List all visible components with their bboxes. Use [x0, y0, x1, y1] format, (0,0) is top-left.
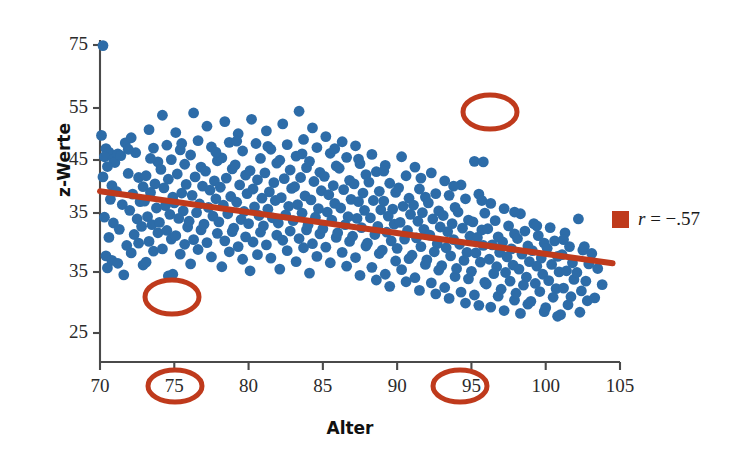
data-point — [499, 203, 510, 214]
data-point — [430, 188, 441, 199]
data-point — [377, 245, 388, 256]
data-point — [102, 263, 113, 274]
data-point — [481, 279, 492, 290]
data-point — [176, 188, 187, 199]
data-point — [230, 159, 241, 170]
data-point — [353, 154, 364, 165]
data-point — [144, 124, 155, 135]
data-point — [219, 235, 230, 246]
x-tick-label: 105 — [597, 375, 643, 397]
x-tick-label: 95 — [448, 375, 494, 397]
data-point — [126, 248, 137, 259]
data-point — [421, 254, 432, 265]
data-point — [466, 266, 477, 277]
data-point — [509, 207, 520, 218]
data-point — [482, 223, 493, 234]
data-point — [515, 308, 526, 319]
data-point — [213, 216, 224, 227]
data-point — [282, 245, 293, 256]
circled-outlier-high — [463, 95, 517, 129]
data-point — [453, 207, 464, 218]
data-point — [505, 276, 516, 287]
data-point — [438, 210, 449, 221]
data-point — [329, 143, 340, 154]
data-point — [148, 143, 159, 154]
data-point — [99, 212, 110, 223]
data-point — [476, 195, 487, 206]
data-point — [234, 180, 245, 191]
data-point — [306, 195, 317, 206]
data-point — [248, 184, 259, 195]
data-point — [555, 309, 566, 320]
data-point — [499, 305, 510, 316]
data-point — [423, 197, 434, 208]
data-point — [185, 150, 196, 161]
data-point — [320, 131, 331, 142]
data-point — [268, 177, 279, 188]
data-point — [262, 141, 273, 152]
data-point — [228, 223, 239, 234]
data-point — [188, 108, 199, 119]
data-point — [320, 242, 331, 253]
data-point — [368, 195, 379, 206]
data-point — [427, 214, 438, 225]
data-point — [337, 247, 348, 258]
data-point — [572, 267, 583, 278]
data-point — [355, 270, 366, 281]
data-point — [338, 184, 349, 195]
data-point — [199, 219, 210, 230]
data-point — [193, 135, 204, 146]
data-point — [410, 272, 421, 283]
data-point — [248, 237, 259, 248]
data-point — [439, 282, 450, 293]
data-point — [414, 285, 425, 296]
data-point — [374, 186, 385, 197]
data-point — [258, 220, 269, 231]
data-point — [156, 164, 167, 175]
data-point — [371, 275, 382, 286]
data-point — [307, 123, 318, 134]
data-point — [534, 286, 545, 297]
data-point — [576, 286, 587, 297]
x-tick-label: 100 — [523, 375, 569, 397]
data-point — [231, 136, 242, 147]
data-point — [309, 176, 320, 187]
data-point — [98, 40, 109, 51]
data-point — [277, 235, 288, 246]
data-point — [579, 241, 590, 252]
legend-r-value: = −.57 — [645, 208, 700, 229]
data-point — [540, 302, 551, 313]
x-tick-label: 70 — [77, 375, 123, 397]
data-point — [478, 157, 489, 168]
data-point — [448, 181, 459, 192]
data-point — [294, 233, 305, 244]
data-point — [574, 307, 585, 318]
data-point — [312, 251, 323, 262]
data-point — [141, 170, 152, 181]
data-point — [297, 148, 308, 159]
x-tick-label: 85 — [300, 375, 346, 397]
scatter-plot-figure: z-Werte Alter 755545353525 7075808590951… — [0, 0, 736, 464]
data-point — [255, 153, 266, 164]
data-point — [114, 224, 125, 235]
data-point — [185, 258, 196, 269]
data-point — [289, 181, 300, 192]
data-point — [307, 238, 318, 249]
legend: r = −.57 — [612, 208, 700, 230]
data-point — [277, 119, 288, 130]
data-point — [179, 159, 190, 170]
data-point — [261, 125, 272, 136]
data-point — [170, 230, 181, 241]
data-point — [158, 182, 169, 193]
data-point — [231, 197, 242, 208]
data-point — [191, 207, 202, 218]
data-point — [141, 257, 152, 268]
data-point — [123, 168, 134, 179]
data-point — [573, 214, 584, 225]
data-point — [161, 140, 172, 151]
data-point — [561, 265, 572, 276]
data-point — [251, 138, 262, 149]
data-point — [298, 134, 309, 145]
data-point — [398, 201, 409, 212]
data-point — [274, 264, 285, 275]
